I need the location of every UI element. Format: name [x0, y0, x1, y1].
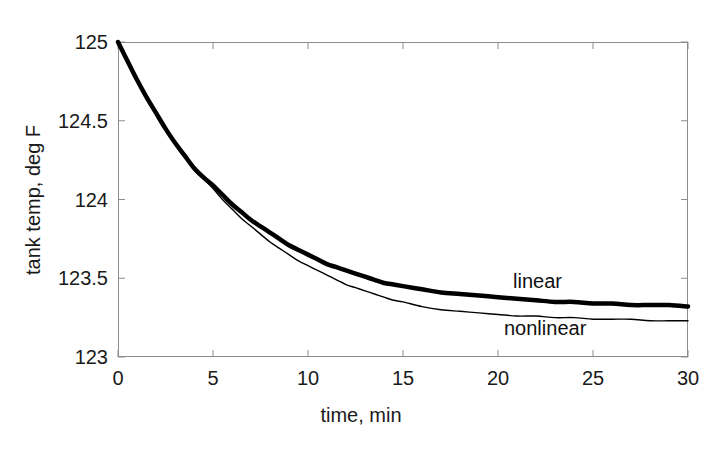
y-tick-label: 124	[75, 190, 108, 210]
x-axis-title: time, min	[0, 404, 722, 427]
y-tick-label: 123	[75, 347, 108, 367]
x-tick-label: 0	[112, 368, 123, 388]
x-tick-label: 25	[582, 368, 604, 388]
figure-canvas: 123123.5124124.5125 051015202530 time, m…	[0, 0, 722, 454]
x-tick-label: 30	[677, 368, 699, 388]
y-tick-label: 123.5	[58, 268, 108, 288]
plot-frame	[118, 42, 688, 357]
y-axis-title: tank temp, deg F	[22, 125, 45, 275]
y-tick-label: 124.5	[58, 111, 108, 131]
x-tick-label: 10	[297, 368, 319, 388]
series-annotation-nonlinear: nonlinear	[504, 318, 586, 338]
x-tick-label: 20	[487, 368, 509, 388]
y-tick-label: 125	[75, 32, 108, 52]
series-annotation-linear: linear	[513, 271, 562, 291]
x-tick-label: 5	[207, 368, 218, 388]
x-tick-label: 15	[392, 368, 414, 388]
